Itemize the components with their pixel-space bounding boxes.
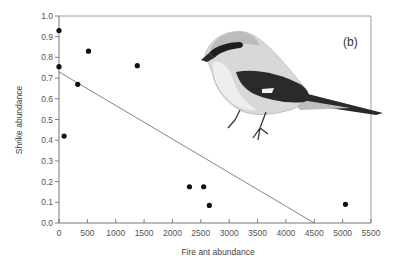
y-tick-label: 0.6 <box>41 94 53 104</box>
x-tick-label: 1500 <box>135 228 154 238</box>
x-tick-label: 4500 <box>305 228 324 238</box>
data-point <box>187 184 192 189</box>
y-tick-label: 0.0 <box>41 218 53 228</box>
y-tick-label: 0.7 <box>41 73 53 83</box>
scatter-chart: 0.00.10.20.30.40.50.60.70.80.91.0 050010… <box>0 0 401 261</box>
y-tick-label: 0.8 <box>41 52 53 62</box>
data-points <box>56 28 348 208</box>
x-tick-label: 0 <box>57 228 62 238</box>
y-tick-label: 1.0 <box>41 11 53 21</box>
y-tick-label: 0.3 <box>41 156 53 166</box>
x-tick-label: 500 <box>80 228 94 238</box>
x-tick-group: 0500100015002000250030003500400045005000… <box>57 219 381 238</box>
x-tick-label: 3500 <box>248 228 267 238</box>
y-tick-label: 0.9 <box>41 32 53 42</box>
panel-label: (b) <box>343 35 358 49</box>
data-point <box>207 203 212 208</box>
x-tick-label: 1000 <box>106 228 125 238</box>
y-tick-label: 0.5 <box>41 115 53 125</box>
y-tick-group: 0.00.10.20.30.40.50.60.70.80.91.0 <box>41 11 59 228</box>
x-tick-label: 2000 <box>163 228 182 238</box>
x-axis-title: Fire ant abundance <box>181 247 255 257</box>
data-point <box>75 82 80 87</box>
data-point <box>56 64 61 69</box>
x-tick-label: 3000 <box>220 228 239 238</box>
y-tick-label: 0.1 <box>41 197 53 207</box>
x-tick-label: 5500 <box>362 228 381 238</box>
data-point <box>201 184 206 189</box>
y-axis-title: Shrike abundance <box>14 85 24 154</box>
data-point <box>86 49 91 54</box>
data-point <box>343 202 348 207</box>
y-tick-label: 0.4 <box>41 135 53 145</box>
data-point <box>56 28 61 33</box>
data-point <box>135 63 140 68</box>
x-tick-label: 5000 <box>333 228 352 238</box>
x-tick-label: 4000 <box>276 228 295 238</box>
data-point <box>62 133 67 138</box>
y-tick-label: 0.2 <box>41 177 53 187</box>
x-tick-label: 2500 <box>191 228 210 238</box>
